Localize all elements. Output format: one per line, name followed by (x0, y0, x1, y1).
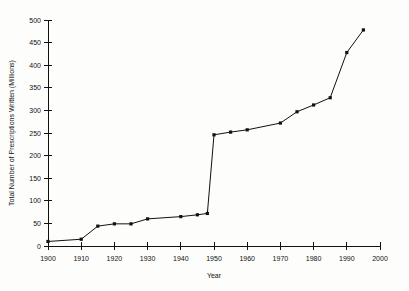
x-axis-title: Year (207, 272, 222, 279)
series-markers (46, 28, 365, 243)
x-tick-label: 1970 (273, 255, 289, 262)
x-tick-label: 1940 (173, 255, 189, 262)
x-tick-label: 1930 (140, 255, 156, 262)
data-point-marker (295, 110, 298, 113)
y-tick-label: 100 (29, 197, 41, 204)
data-point-marker (96, 225, 99, 228)
x-tick-label: 1990 (339, 255, 355, 262)
prescriptions-line-chart: 050100150200250300350400450500 190019101… (0, 0, 409, 291)
data-point-marker (345, 51, 348, 54)
y-tick-label: 250 (29, 130, 41, 137)
y-tick-label: 400 (29, 62, 41, 69)
data-point-marker (212, 133, 215, 136)
x-tick-label: 1980 (306, 255, 322, 262)
chart-figure: 050100150200250300350400450500 190019101… (0, 0, 409, 291)
y-tick-label: 0 (37, 243, 41, 250)
data-point-marker (46, 240, 49, 243)
data-point-marker (362, 28, 365, 31)
x-tick-label: 1960 (239, 255, 255, 262)
data-series-group (46, 28, 365, 243)
chart-axes (48, 20, 380, 246)
y-tick-label: 200 (29, 152, 41, 159)
data-point-marker (206, 212, 209, 215)
data-point-marker (246, 128, 249, 131)
data-point-marker (196, 213, 199, 216)
series-line-prescriptions (48, 30, 363, 242)
y-tick-label: 500 (29, 17, 41, 24)
x-tick-label: 2000 (372, 255, 388, 262)
y-axis-ticks: 050100150200250300350400450500 (29, 17, 52, 250)
data-point-marker (129, 222, 132, 225)
y-tick-label: 350 (29, 84, 41, 91)
data-point-marker (279, 121, 282, 124)
y-tick-label: 150 (29, 175, 41, 182)
data-point-marker (229, 131, 232, 134)
data-point-marker (179, 215, 182, 218)
x-tick-label: 1900 (40, 255, 56, 262)
data-point-marker (329, 96, 332, 99)
data-point-marker (312, 103, 315, 106)
y-tick-label: 450 (29, 39, 41, 46)
x-tick-label: 1950 (206, 255, 222, 262)
data-point-marker (113, 222, 116, 225)
x-tick-label: 1920 (107, 255, 123, 262)
x-axis-ticks: 1900191019201930194019501960197019801990… (40, 242, 388, 262)
x-tick-label: 1910 (73, 255, 89, 262)
y-axis-title: Total Number of Prescriptions Written (M… (8, 60, 16, 206)
y-tick-label: 300 (29, 107, 41, 114)
y-tick-label: 50 (33, 220, 41, 227)
data-point-marker (146, 217, 149, 220)
data-point-marker (80, 238, 83, 241)
